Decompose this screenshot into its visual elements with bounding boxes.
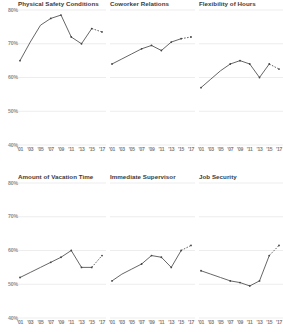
data-point-marker <box>200 87 202 89</box>
data-point-marker <box>170 41 172 43</box>
x-axis-tick-label: '11 <box>158 319 164 325</box>
data-point-marker <box>19 60 21 62</box>
data-point-marker <box>229 63 231 65</box>
x-axis-tick-label: '03 <box>27 319 33 325</box>
data-point-marker <box>239 60 241 62</box>
x-axis-tick-label: '07 <box>48 319 54 325</box>
data-point-marker <box>111 280 113 282</box>
data-point-marker <box>81 43 83 45</box>
chart-title: Immediate Supervisor <box>110 173 176 181</box>
x-axis-tick-label: '11 <box>68 146 74 152</box>
chart-plot-area <box>199 10 283 145</box>
x-axis-tick-label: '15 <box>178 146 184 152</box>
x-axis-tick-label: '01 <box>198 319 204 325</box>
x-axis-tick-label: '05 <box>129 146 135 152</box>
x-axis-tick-label: '07 <box>227 146 233 152</box>
x-axis-tick-label: '01 <box>17 146 23 152</box>
x-axis-tick-label: '01 <box>17 319 23 325</box>
chart-panel: Coworker Relations'01'03'05'07'09'11'13'… <box>110 0 195 166</box>
chart-title: Physical Safety Conditions <box>18 0 99 8</box>
data-point-marker <box>141 263 143 265</box>
series-line-dashed <box>181 37 191 39</box>
x-axis-tick-label: '13 <box>78 319 84 325</box>
data-point-marker <box>249 63 251 65</box>
x-axis-tick-label: '03 <box>208 146 214 152</box>
x-axis-tick-label: '05 <box>129 319 135 325</box>
x-axis-tick-label: '03 <box>119 146 125 152</box>
chart-title: Flexibility of Hours <box>199 0 256 8</box>
x-axis-labels: '01'03'05'07'09'11'13'15'17 <box>199 146 283 155</box>
data-point-marker <box>50 261 52 263</box>
data-point-marker <box>190 245 192 247</box>
x-axis-tick-label: '17 <box>99 319 105 325</box>
data-point-marker <box>19 277 21 279</box>
small-multiples-chart-grid: 80%70%60%50%40%80%70%60%50%40%Physical S… <box>0 0 283 332</box>
x-axis-tick-label: '15 <box>266 319 272 325</box>
x-axis-tick-label: '01 <box>109 319 115 325</box>
x-axis-tick-label: '13 <box>168 319 174 325</box>
data-point-marker <box>239 282 241 284</box>
data-point-marker <box>180 250 182 252</box>
data-point-marker <box>81 266 83 268</box>
chart-plot-area <box>110 183 195 318</box>
x-axis-tick-label: '17 <box>276 146 282 152</box>
chart-panel: Physical Safety Conditions'01'03'05'07'0… <box>18 0 106 166</box>
x-axis-labels: '01'03'05'07'09'11'13'15'17 <box>199 319 283 328</box>
chart-panel: Immediate Supervisor'01'03'05'07'09'11'1… <box>110 173 195 332</box>
data-point-marker <box>278 245 280 247</box>
data-point-marker <box>229 280 231 282</box>
x-axis-tick-label: '09 <box>58 319 64 325</box>
data-point-marker <box>278 68 280 70</box>
x-axis-labels: '01'03'05'07'09'11'13'15'17 <box>18 319 106 328</box>
x-axis-tick-label: '13 <box>78 146 84 152</box>
x-axis-tick-label: '13 <box>168 146 174 152</box>
data-point-marker <box>60 256 62 258</box>
x-axis-tick-label: '09 <box>148 319 154 325</box>
series-line-dashed <box>269 64 279 69</box>
chart-row-1: Amount of Vacation Time'01'03'05'07'09'1… <box>0 173 283 332</box>
data-point-marker <box>50 18 52 20</box>
series-line-solid <box>201 61 269 88</box>
data-point-marker <box>190 36 192 38</box>
chart-title: Amount of Vacation Time <box>18 173 93 181</box>
x-axis-tick-label: '17 <box>188 146 194 152</box>
x-axis-tick-label: '11 <box>247 319 253 325</box>
x-axis-tick-label: '09 <box>148 146 154 152</box>
x-axis-tick-label: '17 <box>276 319 282 325</box>
data-point-marker <box>91 28 93 30</box>
x-axis-tick-label: '01 <box>198 146 204 152</box>
x-axis-tick-label: '15 <box>178 319 184 325</box>
x-axis-tick-label: '11 <box>158 146 164 152</box>
x-axis-labels: '01'03'05'07'09'11'13'15'17 <box>110 319 195 328</box>
x-axis-tick-label: '03 <box>27 146 33 152</box>
chart-title: Job Security <box>199 173 237 181</box>
data-point-marker <box>111 63 113 65</box>
x-axis-labels: '01'03'05'07'09'11'13'15'17 <box>18 146 106 155</box>
series-line-dashed <box>92 256 102 268</box>
x-axis-tick-label: '09 <box>237 319 243 325</box>
x-axis-tick-label: '09 <box>237 146 243 152</box>
x-axis-tick-label: '05 <box>37 319 43 325</box>
chart-panel: Job Security'01'03'05'07'09'11'13'15'17 <box>199 173 283 332</box>
data-point-marker <box>170 266 172 268</box>
chart-plot-area <box>18 10 106 145</box>
series-line-solid <box>20 15 92 61</box>
x-axis-tick-label: '07 <box>139 146 145 152</box>
x-axis-tick-label: '05 <box>217 146 223 152</box>
x-axis-tick-label: '13 <box>256 146 262 152</box>
chart-panel: Flexibility of Hours'01'03'05'07'09'11'1… <box>199 0 283 166</box>
chart-plot-area <box>110 10 195 145</box>
chart-title: Coworker Relations <box>110 0 169 8</box>
x-axis-tick-label: '13 <box>256 319 262 325</box>
data-point-marker <box>249 285 251 287</box>
x-axis-tick-label: '03 <box>208 319 214 325</box>
x-axis-tick-label: '03 <box>119 319 125 325</box>
data-point-marker <box>268 63 270 65</box>
x-axis-tick-label: '07 <box>139 319 145 325</box>
data-point-marker <box>259 280 261 282</box>
data-point-marker <box>101 255 103 257</box>
series-line-dashed <box>181 245 191 250</box>
x-axis-labels: '01'03'05'07'09'11'13'15'17 <box>110 146 195 155</box>
x-axis-tick-label: '07 <box>48 146 54 152</box>
data-point-marker <box>200 270 202 272</box>
